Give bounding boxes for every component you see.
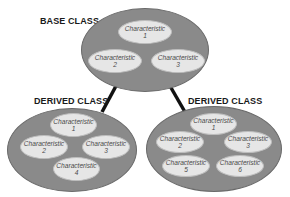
base-class-title: BASE CLASS (40, 16, 99, 26)
derived-right-characteristic-6: Characteristic 6 (216, 155, 264, 177)
derived-right-title: DERIVED CLASS (188, 96, 262, 106)
base-characteristic-2: Characteristic 2 (88, 49, 142, 73)
derived-left-title: DERIVED CLASS (34, 96, 108, 106)
derived-left-characteristic-3: Characteristic 3 (82, 135, 130, 159)
derived-right-characteristic-2: Characteristic 2 (156, 131, 204, 153)
derived-right-characteristic-3: Characteristic 3 (224, 131, 272, 153)
derived-left-characteristic-1: Characteristic 1 (50, 113, 97, 137)
derived-right-characteristic-1: Characteristic 1 (190, 113, 237, 135)
derived-right-characteristic-5: Characteristic 5 (162, 155, 210, 177)
base-characteristic-3: Characteristic 3 (151, 49, 205, 73)
derived-left-characteristic-4: Characteristic 4 (53, 157, 100, 181)
base-characteristic-1: Characteristic 1 (118, 20, 172, 44)
connector-right (170, 86, 185, 112)
derived-left-characteristic-2: Characteristic 2 (20, 135, 68, 159)
